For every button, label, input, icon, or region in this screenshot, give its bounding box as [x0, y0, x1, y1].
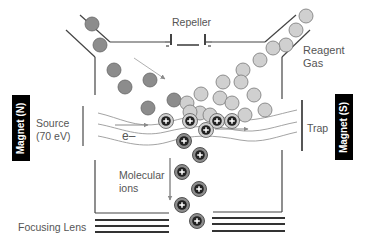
- reagent-molecule: [234, 75, 248, 89]
- reagent-molecule: [238, 108, 252, 122]
- reagent-gas-label-line2: Gas: [303, 57, 323, 70]
- source-label-line2: (70 eV): [36, 130, 70, 143]
- magnet-north-label: Magnet (N): [16, 102, 27, 154]
- source-label-line1: Source: [36, 117, 69, 130]
- electron-label: e–: [122, 130, 135, 143]
- reagent-molecule: [253, 53, 267, 67]
- analyte-molecule: [118, 80, 132, 94]
- analyte-molecule: [85, 17, 99, 31]
- reagent-molecule: [258, 103, 272, 117]
- reagent-molecule: [225, 96, 239, 110]
- analyte-molecule: [107, 63, 121, 77]
- repeller-label: Repeller: [172, 16, 211, 29]
- reagent-molecule: [247, 88, 261, 102]
- trap-label: Trap: [307, 122, 328, 135]
- molecular-ions: [175, 134, 208, 229]
- reagent-molecule: [216, 75, 230, 89]
- reagent-molecule: [266, 41, 280, 55]
- focusing-lens-label: Focusing Lens: [18, 221, 86, 234]
- reagent-molecule: [194, 87, 208, 101]
- magnet-south-label: Magnet (S): [339, 101, 350, 152]
- magnet-south: Magnet (S): [335, 94, 353, 160]
- analyte-molecule: [143, 73, 157, 87]
- reagent-molecule: [289, 23, 303, 37]
- molecular-ions-label-line1: Molecular: [119, 169, 165, 182]
- analyte-molecule: [167, 93, 181, 107]
- reagent-gas-label-line1: Reagent: [303, 44, 345, 57]
- molecular-ions-label-line2: ions: [119, 182, 138, 195]
- magnet-north: Magnet (N): [12, 95, 30, 161]
- reagent-molecule: [299, 9, 313, 23]
- reagent-molecule: [279, 38, 293, 52]
- analyte-molecule: [141, 101, 155, 115]
- repeller-electrode: [165, 34, 212, 46]
- analyte-molecule: [93, 38, 107, 52]
